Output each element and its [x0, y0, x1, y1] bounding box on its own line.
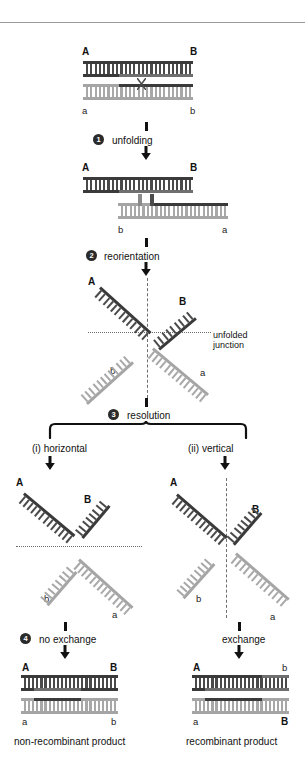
- step2-label: reorientation: [104, 251, 160, 262]
- step1-label: unfolding: [112, 135, 153, 146]
- panel4l-chevrons: [0, 0, 305, 781]
- product-left-label-b: b: [111, 717, 116, 727]
- panel4r-label-b: b: [196, 594, 201, 604]
- branch-arrow-left: [43, 456, 57, 474]
- product-right-caption: recombinant product: [186, 736, 277, 747]
- step1-tick: [145, 122, 148, 131]
- step-badge-2: 2: [86, 250, 97, 261]
- product-right-label-A: A: [193, 663, 200, 673]
- panel3-label-a: a: [200, 368, 205, 378]
- panel4l-label-B: B: [84, 495, 91, 505]
- step-badge-3: 3: [108, 409, 119, 420]
- product-left-duplex-bottom: [21, 698, 118, 714]
- junction-vertical-dashed-line: [147, 278, 148, 398]
- step2-arrow: [139, 262, 153, 280]
- product-left-label-B: B: [110, 663, 117, 673]
- branch-label-vertical: (ii) vertical: [188, 443, 234, 454]
- panel3-label-b: b: [110, 366, 115, 376]
- top-divider-rule: [0, 22, 305, 23]
- panel2-label-a: a: [222, 225, 227, 235]
- step4-arrow-left: [58, 645, 72, 663]
- product-right-duplex-top: [192, 675, 289, 691]
- panel2-connector-left: [138, 194, 142, 206]
- panel1-label-a: a: [82, 106, 87, 116]
- product-left-duplex-top: [21, 675, 118, 691]
- figure-canvas: A B a b 1 unfolding A B b a 2 reorientat…: [0, 0, 305, 781]
- product-right-label-b: b: [282, 663, 287, 673]
- panel4r-vertical-dashed-line: [226, 478, 227, 618]
- panel4l-label-a: a: [112, 610, 117, 620]
- panel1-label-b: b: [190, 106, 195, 116]
- panel4r-label-B: B: [252, 505, 259, 515]
- step-badge-4: 4: [20, 633, 31, 644]
- panel1-crossover: [137, 76, 146, 88]
- branch-label-horizontal: (i) horizontal: [32, 443, 87, 454]
- panel3-label-A: A: [88, 277, 95, 287]
- panel4l-separator-dotted: [16, 546, 142, 547]
- product-right-label-B: B: [281, 717, 288, 727]
- panel2-label-b: b: [118, 225, 123, 235]
- resolution-brace: [48, 421, 248, 443]
- panel4r-label-A: A: [170, 478, 177, 488]
- product-left-label-a: a: [22, 717, 27, 727]
- panel1-label-A: A: [82, 47, 89, 57]
- step4-tick-right: [238, 622, 241, 631]
- panel2-duplex-bottom: [118, 203, 228, 221]
- branch-arrow-right: [218, 456, 232, 474]
- step1-arrow: [139, 146, 153, 164]
- step4-label-exchange: exchange: [222, 634, 265, 645]
- product-left-label-A: A: [22, 663, 29, 673]
- step4-label-no-exchange: no exchange: [39, 634, 96, 645]
- junction-horizontal-dotted-line: [88, 332, 211, 333]
- step4-arrow-right: [232, 645, 246, 663]
- step3-tick: [145, 398, 148, 407]
- panel3-label-B: B: [179, 297, 186, 307]
- step4-tick-left: [64, 622, 67, 631]
- panel2-duplex-top: [83, 177, 193, 195]
- panel4l-label-A: A: [16, 478, 23, 488]
- panel4l-label-b: b: [44, 594, 49, 604]
- step3-label: resolution: [127, 410, 170, 421]
- panel2-label-B: B: [190, 163, 197, 173]
- panel2-connector-right: [150, 194, 154, 206]
- panel4r-label-a: a: [270, 612, 275, 622]
- product-right-label-a: a: [193, 717, 198, 727]
- product-left-caption: non-recombinant product: [14, 736, 125, 747]
- panel3-holliday-junction: [0, 0, 305, 781]
- product-right-duplex-bottom: [192, 698, 289, 714]
- step2-tick: [145, 238, 148, 247]
- panel1-label-B: B: [190, 47, 197, 57]
- unfolded-junction-note-line1: unfolded: [213, 330, 248, 340]
- panel2-label-A: A: [82, 163, 89, 173]
- step-badge-1: 1: [93, 134, 104, 145]
- panel4r-chevrons: [0, 0, 305, 781]
- unfolded-junction-note-line2: junction: [213, 340, 244, 350]
